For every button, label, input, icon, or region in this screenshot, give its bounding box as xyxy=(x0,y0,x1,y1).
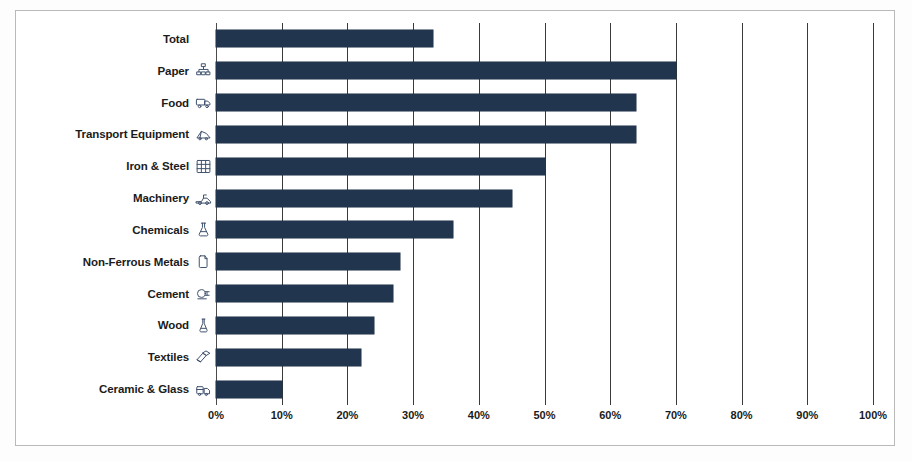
bar-textiles xyxy=(216,349,361,366)
category-row: Food xyxy=(16,87,212,119)
bar-row xyxy=(216,341,873,373)
gridline-100% xyxy=(873,23,874,405)
bar-ceramic-glass xyxy=(216,381,282,398)
bar-chemicals xyxy=(216,221,453,238)
category-row: Machinery xyxy=(16,182,212,214)
category-label: Ceramic & Glass xyxy=(99,383,189,395)
category-label: Transport Equipment xyxy=(75,128,189,140)
category-label: Machinery xyxy=(133,192,189,204)
bar-iron-steel xyxy=(216,158,545,175)
category-row: Non-Ferrous Metals xyxy=(16,246,212,278)
bar-row xyxy=(216,87,873,119)
bar-row xyxy=(216,214,873,246)
x-tick-label: 60% xyxy=(599,409,621,421)
bar-row xyxy=(216,150,873,182)
category-row: Iron & Steel xyxy=(16,150,212,182)
category-row: Paper xyxy=(16,55,212,87)
bar-row xyxy=(216,182,873,214)
bar-non-ferrous-metals xyxy=(216,253,400,270)
category-row: Wood xyxy=(16,310,212,342)
cement-mixer-icon xyxy=(195,285,212,302)
category-row: Chemicals xyxy=(16,214,212,246)
bar-row xyxy=(216,23,873,55)
iron-steel-grid-icon xyxy=(195,158,212,175)
x-tick-label: 0% xyxy=(208,409,224,421)
x-tick-label: 70% xyxy=(665,409,687,421)
chemicals-flask-icon xyxy=(195,221,212,238)
x-tick-label: 100% xyxy=(859,409,887,421)
value-axis: 0%10%20%30%40%50%60%70%80%90%100% xyxy=(216,409,873,431)
wood-flask-icon xyxy=(195,317,212,334)
x-tick-label: 50% xyxy=(533,409,555,421)
bar-row xyxy=(216,310,873,342)
bar-wood xyxy=(216,317,374,334)
category-row: Transport Equipment xyxy=(16,119,212,151)
textiles-icon xyxy=(195,349,212,366)
non-ferrous-metals-icon xyxy=(195,253,212,270)
category-label: Food xyxy=(161,97,189,109)
bar-row xyxy=(216,373,873,405)
page-background: TotalPaperFoodTransport EquipmentIron & … xyxy=(0,0,912,462)
category-row: Cement xyxy=(16,278,212,310)
bar-transport-equipment xyxy=(216,126,636,143)
x-tick-label: 80% xyxy=(731,409,753,421)
category-label: Non-Ferrous Metals xyxy=(83,256,189,268)
bar-row xyxy=(216,55,873,87)
category-axis: TotalPaperFoodTransport EquipmentIron & … xyxy=(16,23,216,405)
bar-total xyxy=(216,30,433,47)
ceramic-glass-icon xyxy=(195,381,212,398)
bar-paper xyxy=(216,62,676,79)
machinery-icon xyxy=(195,190,212,207)
bar-row xyxy=(216,278,873,310)
category-row: Ceramic & Glass xyxy=(16,373,212,405)
chart-frame: TotalPaperFoodTransport EquipmentIron & … xyxy=(15,10,895,446)
x-tick-label: 90% xyxy=(796,409,818,421)
x-tick-label: 30% xyxy=(402,409,424,421)
bar-series xyxy=(216,23,873,405)
plot-area xyxy=(216,23,873,405)
food-truck-icon xyxy=(195,94,212,111)
category-label: Wood xyxy=(158,319,189,331)
bar-food xyxy=(216,94,636,111)
category-label: Textiles xyxy=(148,351,189,363)
bar-row xyxy=(216,119,873,151)
bar-cement xyxy=(216,285,393,302)
x-tick-label: 20% xyxy=(336,409,358,421)
x-tick-label: 40% xyxy=(468,409,490,421)
category-label: Iron & Steel xyxy=(126,160,189,172)
x-tick-label: 10% xyxy=(271,409,293,421)
category-label: Paper xyxy=(158,65,189,77)
category-label: Cement xyxy=(147,288,189,300)
category-row: Textiles xyxy=(16,341,212,373)
paper-hierarchy-icon xyxy=(195,62,212,79)
category-row: Total xyxy=(16,23,212,55)
category-label: Chemicals xyxy=(132,224,189,236)
bar-row xyxy=(216,246,873,278)
bar-machinery xyxy=(216,190,512,207)
transport-equipment-icon xyxy=(195,126,212,143)
category-label: Total xyxy=(163,33,189,45)
